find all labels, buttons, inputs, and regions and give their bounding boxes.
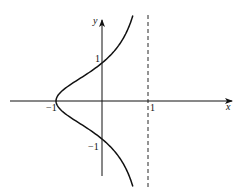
- y-axis-label: y: [92, 15, 98, 26]
- y-tick-label: −1: [88, 141, 99, 152]
- x-axis-label: x: [225, 101, 231, 112]
- y-tick-label: 1: [95, 53, 100, 64]
- x-tick-label: −1: [46, 102, 57, 113]
- x-tick-label: 1: [150, 102, 155, 113]
- graph: x y −1 1 1 −1: [0, 0, 246, 193]
